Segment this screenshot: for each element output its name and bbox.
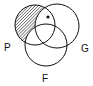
marker-dot xyxy=(46,15,49,18)
venn-diagram: P G F xyxy=(0,0,93,86)
label-p: P xyxy=(4,42,11,53)
label-g: G xyxy=(81,43,89,54)
label-f: F xyxy=(42,73,48,84)
